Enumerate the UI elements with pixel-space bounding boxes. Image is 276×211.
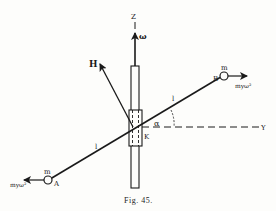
mass-b-circle <box>220 72 228 80</box>
mass-a-label: m <box>44 168 51 176</box>
figure-caption: Fig. 45. <box>124 196 153 205</box>
angle-alpha-arc <box>171 110 174 127</box>
rod-ab <box>51 78 220 179</box>
h-vector-arrow <box>100 64 133 127</box>
z-axis-label: Z <box>131 13 136 21</box>
diagram-canvas: Z ω H B m myω² l α K Y l m A myω² Fig. 4… <box>0 0 276 211</box>
point-b-label: B <box>213 75 218 83</box>
length-upper-label: l <box>172 95 175 103</box>
angle-alpha-label: α <box>154 119 160 128</box>
omega-label: ω <box>139 31 147 41</box>
figure-45-diagram: Z ω H B m myω² l α K Y l m A myω² Fig. 4… <box>0 0 276 211</box>
pivot-k-label: K <box>144 133 150 141</box>
h-vector-label: H <box>89 59 98 69</box>
y-axis-label: Y <box>260 124 266 132</box>
mass-b-label: m <box>221 64 228 72</box>
point-a-label: A <box>53 180 60 188</box>
force-b-label: myω² <box>235 82 252 90</box>
force-a-label: myω² <box>10 181 27 189</box>
mass-a-circle <box>44 176 52 184</box>
